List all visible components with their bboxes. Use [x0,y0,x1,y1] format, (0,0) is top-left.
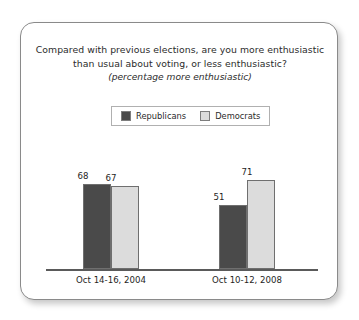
chart-screenshot: Compared with previous elections, are yo… [0,0,359,320]
x-axis-label-2004: Oct 14-16, 2004 [51,275,171,285]
bar-2008-democrats [247,180,275,269]
x-axis-line [46,269,318,271]
bar-2008-republicans [219,205,247,269]
bar-value-2008-democrats: 71 [232,167,262,177]
chart-card: Compared with previous elections, are yo… [20,22,338,300]
bar-2004-democrats [111,186,139,269]
plot-area: 68 67 51 71 Oct 14-16, 2004 Oct 10-12, 2… [21,23,339,301]
x-axis-label-2008: Oct 10-12, 2008 [187,275,307,285]
bar-value-2008-republicans: 51 [204,192,234,202]
bar-value-2004-republicans: 68 [68,171,98,181]
bar-2004-republicans [83,184,111,269]
bar-value-2004-democrats: 67 [96,173,126,183]
